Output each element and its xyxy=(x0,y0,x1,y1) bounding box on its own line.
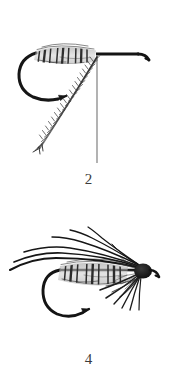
ribbed-body xyxy=(34,44,96,64)
wing-fibers xyxy=(10,227,140,270)
hackle-feather xyxy=(33,56,100,154)
fly-tying-step-2-illustration xyxy=(0,0,177,200)
hook-barb xyxy=(59,95,67,100)
hook-eye-tip xyxy=(146,59,150,61)
figure-step-2: 2 xyxy=(0,0,177,200)
figure-caption-2: 2 xyxy=(0,172,177,187)
hook-eye-tip xyxy=(156,276,160,278)
figure-step-4: 4 xyxy=(0,200,177,391)
figure-caption-4: 4 xyxy=(0,352,177,367)
